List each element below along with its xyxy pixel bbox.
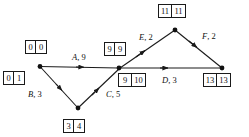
time-box-start-bottom: 0 1 bbox=[3, 71, 25, 85]
node-start bbox=[38, 64, 43, 69]
edge-arrowhead-c bbox=[92, 88, 99, 95]
time-box-cell-latest: 10 bbox=[132, 74, 145, 86]
time-box-cell-earliest: 0 bbox=[4, 72, 14, 84]
time-box-cell-earliest: 9 bbox=[105, 43, 115, 55]
activity-duration-c: 5 bbox=[116, 89, 120, 99]
time-box-cell-earliest: 9 bbox=[119, 74, 132, 86]
activity-duration-d: 3 bbox=[172, 75, 176, 85]
activity-label-b: B, 3 bbox=[28, 90, 42, 99]
time-box-cell-latest: 9 bbox=[115, 43, 125, 55]
time-box-end: 13 13 bbox=[203, 73, 231, 87]
activity-label-e: E, 2 bbox=[139, 33, 153, 42]
time-box-cell-latest: 1 bbox=[14, 72, 24, 84]
time-box-cell-earliest: 11 bbox=[159, 5, 172, 17]
time-box-cell-latest: 13 bbox=[217, 74, 230, 86]
time-box-cell-earliest: 13 bbox=[204, 74, 217, 86]
node-end bbox=[220, 66, 225, 71]
activity-duration-e: 2 bbox=[148, 32, 152, 42]
time-box-cell-earliest: 3 bbox=[64, 120, 74, 132]
activity-duration-f: 2 bbox=[211, 31, 215, 41]
time-box-cell-latest: 4 bbox=[74, 120, 84, 132]
time-box-apex: 11 11 bbox=[158, 4, 186, 18]
activity-label-f: F, 2 bbox=[202, 32, 216, 41]
node-bottom bbox=[76, 106, 81, 111]
node-middle bbox=[117, 66, 122, 71]
time-box-cell-latest: 11 bbox=[172, 5, 185, 17]
time-box-start-top: 0 0 bbox=[25, 40, 47, 54]
activity-label-a: A, 9 bbox=[72, 53, 86, 62]
activity-label-d: D, 3 bbox=[162, 76, 177, 85]
node-apex bbox=[173, 28, 178, 33]
edge-arrowhead-f bbox=[189, 41, 197, 48]
time-box-middle-bottom: 9 10 bbox=[118, 73, 146, 87]
activity-duration-b: 3 bbox=[37, 89, 41, 99]
activity-label-c: C, 5 bbox=[106, 90, 120, 99]
time-box-middle-top: 9 9 bbox=[104, 42, 126, 56]
time-box-bottom: 3 4 bbox=[63, 119, 85, 133]
edge-arrowhead-b bbox=[56, 84, 62, 91]
activity-duration-a: 9 bbox=[81, 52, 85, 62]
network-diagram-figure: 0 0 0 1 3 4 9 9 9 10 11 11 13 13 A, 9 B,… bbox=[0, 0, 249, 137]
edge-arrowhead-e bbox=[136, 51, 145, 58]
network-graph-canvas bbox=[0, 0, 249, 137]
time-box-cell-earliest: 0 bbox=[26, 41, 36, 53]
time-box-cell-latest: 0 bbox=[36, 41, 46, 53]
